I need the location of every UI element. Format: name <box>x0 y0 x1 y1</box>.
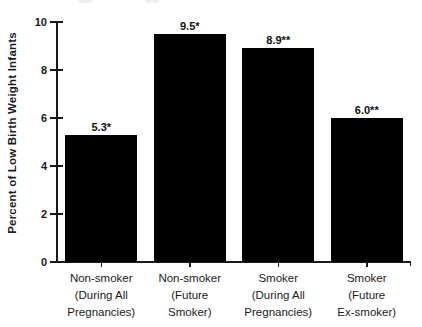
x-axis-end-tick <box>410 262 412 266</box>
y-tick-label: 8 <box>24 64 47 77</box>
y-tick <box>50 165 63 167</box>
x-tick <box>366 262 368 267</box>
y-tick <box>50 69 63 71</box>
bar <box>331 118 403 262</box>
y-tick <box>50 117 63 119</box>
x-tick <box>278 262 280 267</box>
x-category-label: Smoker(FutureEx-smoker) <box>319 270 415 321</box>
scan-artifact <box>145 0 159 3</box>
bar-value-label: 5.3* <box>65 121 137 133</box>
x-tick <box>189 262 191 267</box>
y-axis <box>56 21 58 262</box>
bar-value-label: 8.9** <box>242 34 314 46</box>
y-axis-title: Percent of Low Birth Weight Infants <box>6 32 18 234</box>
bar <box>242 48 314 262</box>
bar-value-label: 6.0** <box>331 104 403 116</box>
y-tick-label: 2 <box>24 208 47 221</box>
bar-value-label: 9.5* <box>154 20 226 32</box>
x-category-label: Non-smoker(FutureSmoker) <box>142 270 238 321</box>
x-category-label: Smoker(During AllPregnancies) <box>230 270 326 321</box>
y-tick-label: 10 <box>24 16 47 29</box>
bar <box>154 34 226 262</box>
x-category-label: Non-smoker(During AllPregnancies) <box>53 270 149 321</box>
y-tick <box>50 261 63 263</box>
bar-chart: Percent of Low Birth Weight Infants 0246… <box>0 0 422 327</box>
bar <box>65 135 137 262</box>
y-tick-label: 0 <box>24 256 47 269</box>
scan-artifact <box>78 0 92 3</box>
y-tick-label: 6 <box>24 112 47 125</box>
x-tick <box>101 262 103 267</box>
y-tick <box>50 21 63 23</box>
y-tick <box>50 213 63 215</box>
y-tick-label: 4 <box>24 160 47 173</box>
